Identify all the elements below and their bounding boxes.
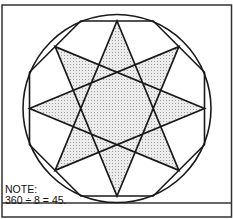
note-equation: 360 ÷ 8 = 45. xyxy=(5,195,67,206)
note-text: NOTE: 360 ÷ 8 = 45. xyxy=(5,184,67,206)
